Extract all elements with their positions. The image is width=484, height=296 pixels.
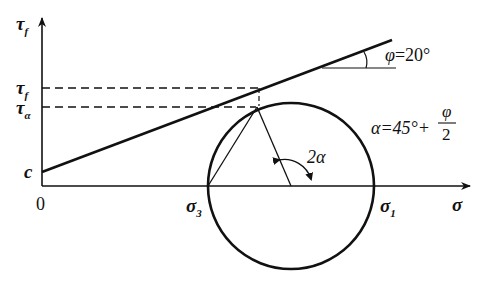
tau-axis-label: τf [16,13,29,37]
radius-to-tangent [257,107,291,186]
phi-angle-arc [364,52,367,68]
sigma1-label: σ1 [380,195,396,219]
tau-alpha-label: τα [16,97,31,121]
sigma3-label: σ3 [186,195,202,219]
mohr-coulomb-diagram: τf τf τα c 0 σ3 σ1 σ φ=20° α=45°+ φ 2 2α [0,0,484,296]
alpha-frac-denominator: 2 [442,125,451,144]
sigma-axis-label: σ [452,194,463,215]
origin-label: 0 [36,194,45,214]
chord-sigma3-to-tangent [208,107,257,186]
alpha-formula-label: α=45°+ [371,118,430,138]
cohesion-label: c [24,161,33,182]
failure-envelope-line [42,40,392,172]
alpha-frac-numerator: φ [442,102,451,121]
friction-angle-label: φ=20° [385,45,430,65]
double-alpha-label: 2α [307,147,326,167]
